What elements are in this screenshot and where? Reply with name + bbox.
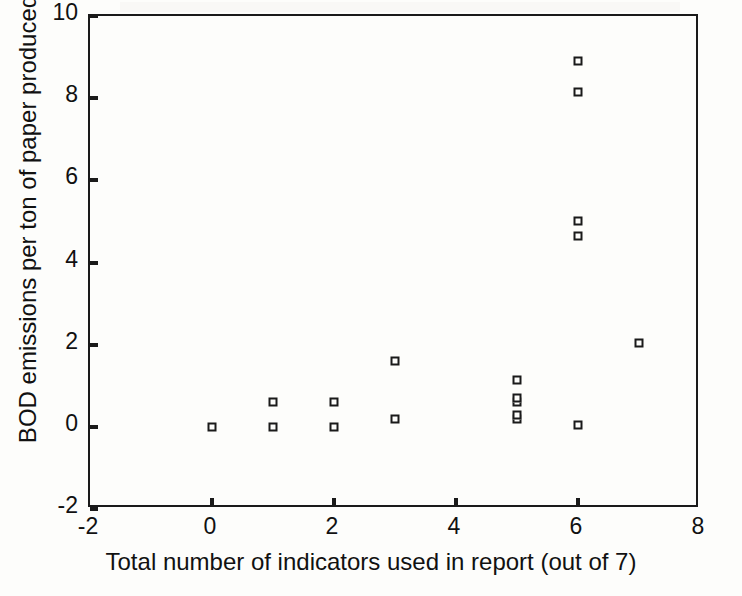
y-tick-label: 10: [52, 0, 78, 26]
y-tick-mark: [90, 178, 98, 182]
data-point: [330, 398, 339, 407]
x-axis-title: Total number of indicators used in repor…: [0, 548, 742, 576]
x-tick-label: 8: [692, 513, 705, 540]
data-point: [513, 410, 522, 419]
data-point: [391, 357, 400, 366]
y-tick-label: 0: [65, 410, 78, 437]
x-tick-mark: [454, 498, 458, 505]
data-point: [330, 422, 339, 431]
data-point: [513, 394, 522, 403]
y-tick-label: 6: [65, 163, 78, 190]
y-tick-label: 2: [65, 328, 78, 355]
data-point: [269, 422, 278, 431]
x-tick-mark: [576, 498, 580, 505]
data-point: [574, 217, 583, 226]
data-point: [574, 420, 583, 429]
y-tick-mark: [90, 261, 98, 265]
y-tick-mark: [90, 14, 98, 18]
x-tick-label: -2: [78, 513, 98, 540]
data-point: [513, 375, 522, 384]
data-point: [574, 88, 583, 97]
plot-area: [88, 14, 698, 507]
y-tick-mark: [90, 507, 98, 511]
y-tick-label: -2: [58, 492, 78, 519]
y-tick-mark: [90, 425, 98, 429]
x-tick-mark: [332, 498, 336, 505]
y-tick-label: 8: [65, 81, 78, 108]
data-point: [635, 338, 644, 347]
x-tick-label: 0: [204, 513, 217, 540]
x-tick-label: 6: [570, 513, 583, 540]
data-point: [391, 414, 400, 423]
x-tick-label: 2: [326, 513, 339, 540]
y-tick-label: 4: [65, 246, 78, 273]
data-point: [574, 57, 583, 66]
y-tick-mark: [90, 96, 98, 100]
scatter-plot-figure: -20246810 -202468 BOD emissions per ton …: [0, 0, 742, 596]
data-point: [574, 231, 583, 240]
data-point: [208, 422, 217, 431]
y-tick-mark: [90, 343, 98, 347]
x-tick-label: 4: [448, 513, 461, 540]
x-tick-mark: [210, 498, 214, 505]
y-axis-title: BOD emissions per ton of paper produced: [14, 0, 42, 454]
data-point: [269, 398, 278, 407]
